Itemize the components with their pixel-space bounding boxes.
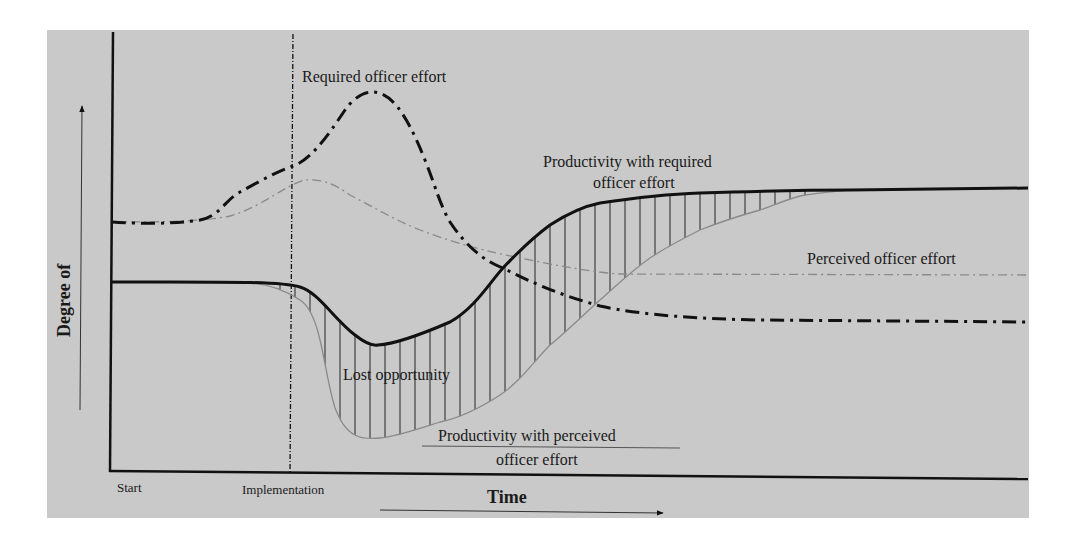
productivity-perceived-line bbox=[112, 188, 1028, 438]
x-axis-title: Time bbox=[487, 487, 527, 507]
implementation-marker-line bbox=[290, 34, 293, 474]
productivity-effort-diagram: Required officer effort Productivity wit… bbox=[0, 0, 1077, 545]
label-required-effort: Required officer effort bbox=[302, 68, 447, 86]
label-productivity-required-line1: Productivity with required bbox=[543, 153, 712, 171]
tick-implementation: Implementation bbox=[242, 482, 325, 497]
x-axis bbox=[109, 471, 1028, 479]
label-productivity-required-line2: officer effort bbox=[593, 174, 675, 191]
label-productivity-perceived-line1: Productivity with perceived bbox=[438, 427, 616, 445]
tick-start: Start bbox=[117, 480, 142, 495]
y-axis-title: Degree of bbox=[54, 263, 74, 337]
label-perceived-effort: Perceived officer effort bbox=[807, 250, 956, 267]
lost-opportunity-hatching bbox=[280, 180, 805, 460]
y-axis bbox=[110, 32, 113, 472]
x-direction-arrow bbox=[380, 510, 663, 513]
y-direction-arrow bbox=[80, 106, 82, 410]
label-productivity-perceived-line2: officer effort bbox=[496, 451, 578, 468]
label-lost-opportunity: Lost opportunity bbox=[343, 366, 450, 384]
required-effort-line bbox=[112, 92, 1028, 322]
label-divider bbox=[422, 446, 680, 448]
